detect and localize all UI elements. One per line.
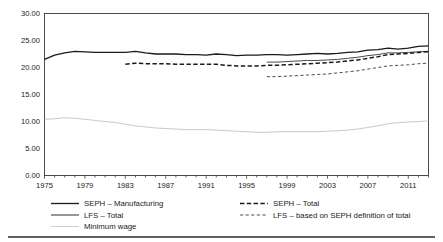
y-tick-label: 0.00 (25, 171, 40, 180)
x-tick-label: 1983 (117, 181, 134, 190)
x-tick-label: 1979 (76, 181, 93, 190)
x-tick-label: 1999 (279, 181, 296, 190)
x-tick-label: 2007 (359, 181, 376, 190)
x-tick-label: 1975 (36, 181, 53, 190)
y-tick-label: 5.00 (25, 144, 40, 153)
y-tick-label: 30.00 (21, 9, 40, 18)
y-tick-label: 20.00 (21, 63, 40, 72)
y-tick-label: 15.00 (21, 90, 40, 99)
x-tick-label: 1995 (238, 181, 255, 190)
x-tick-label: 1987 (157, 181, 174, 190)
figure-background (0, 0, 443, 242)
legend-label: SEPH – Total (273, 199, 319, 208)
legend-label: LFS – based on SEPH definition of total (273, 211, 411, 220)
legend-label: LFS – Total (84, 211, 124, 220)
legend-label: SEPH – Manufacturing (84, 199, 163, 208)
legend-label: Minimum wage (84, 222, 136, 231)
x-tick-label: 1991 (198, 181, 215, 190)
chart-figure: 0.005.0010.0015.0020.0025.0030.00 197519… (0, 0, 443, 242)
y-tick-label: 25.00 (21, 36, 40, 45)
x-tick-label: 2011 (400, 181, 416, 190)
y-tick-label: 10.00 (21, 117, 40, 126)
x-tick-label: 2003 (319, 181, 336, 190)
